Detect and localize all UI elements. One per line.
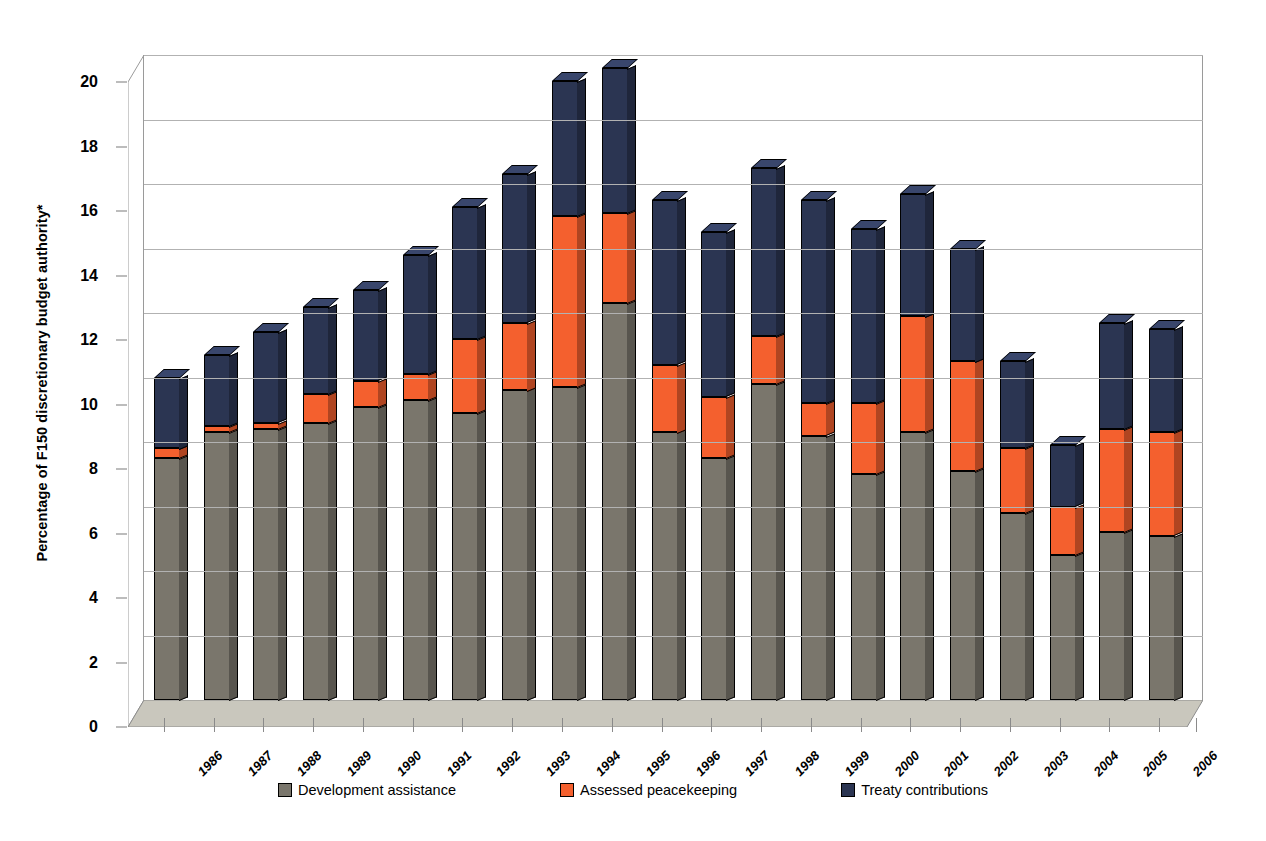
bar-segment-development-assistance[interactable] [204, 432, 230, 700]
bar-segment-treaty-contributions[interactable] [452, 207, 478, 339]
x-tick-mark [960, 718, 961, 732]
bar-segment-side [1025, 510, 1034, 701]
bar-segment-assessed-peacekeeping[interactable] [701, 397, 727, 458]
bar-segment-side [627, 65, 636, 214]
bar-segment-side [577, 385, 586, 701]
bar-2003[interactable] [1000, 361, 1026, 700]
bar-segment-side [826, 401, 835, 437]
bar-segment-side [229, 352, 238, 427]
bar-2002[interactable] [950, 249, 976, 701]
bar-1991[interactable] [403, 255, 429, 700]
bar-segment-treaty-contributions[interactable] [204, 355, 230, 426]
x-tick-label-1994: 1994 [592, 748, 623, 779]
bar-segment-treaty-contributions[interactable] [801, 200, 827, 403]
bar-1988[interactable] [253, 332, 279, 700]
bar-segment-treaty-contributions[interactable] [1099, 323, 1125, 429]
bar-1996[interactable] [652, 200, 678, 700]
bar-segment-side [776, 381, 785, 701]
bar-1997[interactable] [701, 232, 727, 700]
bar-segment-treaty-contributions[interactable] [602, 68, 628, 213]
bar-segment-development-assistance[interactable] [751, 384, 777, 700]
bar-segment-assessed-peacekeeping[interactable] [303, 394, 329, 423]
bar-segment-treaty-contributions[interactable] [1050, 445, 1076, 506]
x-tick-mark [313, 718, 314, 732]
bar-segment-treaty-contributions[interactable] [701, 232, 727, 396]
bar-segment-assessed-peacekeeping[interactable] [602, 213, 628, 303]
bar-segment-development-assistance[interactable] [701, 458, 727, 700]
bar-2005[interactable] [1099, 323, 1125, 700]
bar-segment-treaty-contributions[interactable] [403, 255, 429, 374]
bar-segment-development-assistance[interactable] [652, 432, 678, 700]
bar-segment-development-assistance[interactable] [950, 471, 976, 700]
bar-segment-development-assistance[interactable] [403, 400, 429, 700]
bar-2000[interactable] [851, 229, 877, 700]
bar-segment-treaty-contributions[interactable] [950, 249, 976, 362]
bar-segment-treaty-contributions[interactable] [1000, 361, 1026, 448]
legend-swatch-icon [278, 783, 292, 797]
bar-segment-assessed-peacekeeping[interactable] [353, 381, 379, 407]
bar-segment-treaty-contributions[interactable] [303, 307, 329, 394]
bar-segment-assessed-peacekeeping[interactable] [154, 448, 180, 458]
bar-segment-treaty-contributions[interactable] [1149, 329, 1175, 432]
legend-item-treaty-contributions[interactable]: Treaty contributions [841, 782, 988, 798]
bar-segment-assessed-peacekeeping[interactable] [452, 339, 478, 413]
bar-segment-development-assistance[interactable] [303, 423, 329, 700]
bar-segment-assessed-peacekeeping[interactable] [253, 423, 279, 429]
bar-2001[interactable] [900, 194, 926, 700]
bar-segment-assessed-peacekeeping[interactable] [900, 316, 926, 432]
bar-2004[interactable] [1050, 445, 1076, 700]
bar-segment-development-assistance[interactable] [552, 387, 578, 700]
bar-segment-development-assistance[interactable] [154, 458, 180, 700]
bar-segment-assessed-peacekeeping[interactable] [652, 365, 678, 433]
bar-1999[interactable] [801, 200, 827, 700]
bar-segment-assessed-peacekeeping[interactable] [1000, 448, 1026, 513]
chart-figure: Percentage of F150 discretionary budget … [0, 0, 1266, 841]
bar-segment-development-assistance[interactable] [602, 303, 628, 700]
bar-segment-assessed-peacekeeping[interactable] [801, 403, 827, 435]
bar-segment-development-assistance[interactable] [353, 407, 379, 700]
bar-segment-development-assistance[interactable] [1000, 513, 1026, 700]
legend-item-development-assistance[interactable]: Development assistance [278, 782, 456, 798]
bar-1992[interactable] [452, 207, 478, 700]
bar-1987[interactable] [204, 355, 230, 700]
bar-1995[interactable] [602, 68, 628, 700]
legend-item-assessed-peacekeeping[interactable]: Assessed peacekeeping [560, 782, 737, 798]
bar-segment-treaty-contributions[interactable] [154, 378, 180, 449]
bar-segment-assessed-peacekeeping[interactable] [1099, 429, 1125, 532]
x-tick-label-2003: 2003 [1040, 748, 1071, 779]
bar-segment-side [428, 372, 437, 401]
bar-segment-development-assistance[interactable] [452, 413, 478, 700]
bar-segment-development-assistance[interactable] [253, 429, 279, 700]
bar-1989[interactable] [303, 307, 329, 700]
bar-segment-side [925, 430, 934, 701]
bar-segment-development-assistance[interactable] [1149, 536, 1175, 700]
legend-swatch-icon [560, 783, 574, 797]
bar-segment-treaty-contributions[interactable] [552, 81, 578, 216]
bar-segment-treaty-contributions[interactable] [353, 290, 379, 380]
bar-segment-assessed-peacekeeping[interactable] [1050, 507, 1076, 555]
x-tick-label-1997: 1997 [742, 748, 773, 779]
bar-1993[interactable] [502, 174, 528, 700]
bar-segment-assessed-peacekeeping[interactable] [552, 216, 578, 387]
bar-segment-assessed-peacekeeping[interactable] [204, 426, 230, 432]
bar-segment-development-assistance[interactable] [502, 390, 528, 700]
y-tick-mark [116, 469, 127, 470]
bar-1994[interactable] [552, 81, 578, 700]
x-tick-mark [1109, 718, 1110, 732]
bar-segment-development-assistance[interactable] [1050, 555, 1076, 700]
bar-segment-treaty-contributions[interactable] [900, 194, 926, 317]
bar-segment-assessed-peacekeeping[interactable] [502, 323, 528, 391]
bar-segment-assessed-peacekeeping[interactable] [851, 403, 877, 474]
bar-1986[interactable] [154, 378, 180, 701]
bar-segment-development-assistance[interactable] [900, 432, 926, 700]
bar-segment-development-assistance[interactable] [1099, 532, 1125, 700]
bar-segment-treaty-contributions[interactable] [652, 200, 678, 364]
y-tick-label: 4 [89, 589, 98, 607]
bar-segment-development-assistance[interactable] [851, 474, 877, 700]
bar-segment-assessed-peacekeeping[interactable] [1149, 432, 1175, 535]
bar-1990[interactable] [353, 290, 379, 700]
bar-2006[interactable] [1149, 329, 1175, 700]
bar-segment-development-assistance[interactable] [801, 436, 827, 700]
bar-segment-treaty-contributions[interactable] [751, 168, 777, 336]
bar-segment-side [179, 375, 188, 450]
